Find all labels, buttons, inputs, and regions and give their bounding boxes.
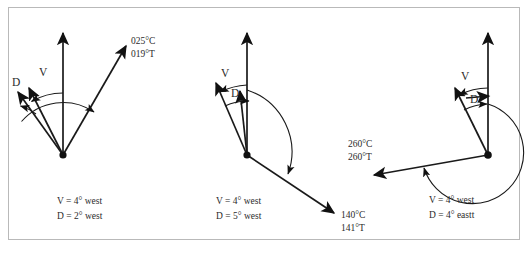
bearing-true-middle: 141°T — [341, 223, 365, 233]
variation-label-left: V — [39, 66, 48, 78]
bearing-compass-right: 260°C — [348, 139, 372, 149]
bearing-compass-left: 025°C — [131, 36, 155, 46]
bearing-true-right: 260°T — [348, 152, 372, 162]
caption-deviation-middle: D = 5° west — [216, 211, 262, 221]
caption-variation-right: V = 4° west — [429, 195, 474, 205]
origin-point-middle — [243, 151, 250, 158]
deviation-label-right: D — [470, 93, 478, 105]
bearing-arc-middle — [247, 90, 292, 174]
variation-vector-left — [29, 88, 63, 155]
bearing-true-left: 019°T — [131, 49, 155, 59]
bearing-vector-right — [374, 155, 488, 175]
caption-deviation-right: D = 4° eastt — [429, 210, 475, 220]
figure-root: V D 025°C 019°T V = 4° west D = 2° west — [0, 0, 528, 261]
deviation-label-left: D — [12, 76, 20, 88]
deviation-label-middle: D — [231, 87, 239, 99]
origin-point-left — [59, 151, 66, 158]
caption-variation-left: V = 4° west — [57, 196, 102, 206]
deviation-arc-middle — [225, 101, 249, 106]
variation-label-right: V — [461, 70, 470, 82]
bearing-arc-right — [424, 104, 524, 204]
bearing-compass-middle: 140°C — [341, 210, 365, 220]
deviation-vector-left — [18, 92, 63, 155]
bearing-vector-left — [63, 46, 126, 155]
vector-diagram-canvas: V D 025°C 019°T V = 4° west D = 2° west — [0, 0, 528, 261]
origin-point-right — [484, 151, 492, 159]
diagram-middle: V D 140°C 141°T V = 4° west D = 5° west — [216, 33, 365, 233]
caption-deviation-left: D = 2° west — [57, 211, 103, 221]
caption-variation-middle: V = 4° west — [216, 196, 261, 206]
variation-label-middle: V — [221, 67, 230, 79]
diagram-right: V D 260°C 260°T V = 4° west D = 4° eastt — [348, 33, 524, 220]
variation-arc-left — [32, 93, 64, 102]
diagram-left: V D 025°C 019°T V = 4° west D = 2° west — [12, 33, 155, 221]
